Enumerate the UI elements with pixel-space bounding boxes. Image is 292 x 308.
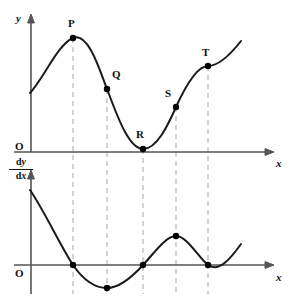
point-marker-p xyxy=(70,35,76,41)
point-label-r: R xyxy=(136,129,144,140)
point-label-t: T xyxy=(202,47,209,58)
point-marker-s xyxy=(173,104,179,110)
calculus-figure: y x O P Q R S T dy dx O x xyxy=(0,0,292,308)
derivative-curve xyxy=(30,190,241,288)
point-label-q: Q xyxy=(112,69,121,80)
lower-origin-label: O xyxy=(15,268,24,279)
derivative-axis-label: dy dx xyxy=(9,157,33,181)
upper-axes xyxy=(14,14,274,155)
upper-y-axis-arrow xyxy=(28,14,35,23)
point-marker-q xyxy=(104,86,110,92)
point-label-p: P xyxy=(68,18,75,29)
numerator-y: y xyxy=(22,156,26,167)
derivative-marker-p xyxy=(70,262,76,268)
figure-canvas xyxy=(0,0,292,308)
upper-x-axis-label: x xyxy=(276,158,282,169)
point-marker-r xyxy=(140,146,146,152)
lower-axes xyxy=(14,170,274,294)
derivative-numerator: dy xyxy=(9,157,33,168)
lower-x-axis-arrow xyxy=(265,262,274,269)
derivative-marker-r xyxy=(140,262,146,268)
point-label-s: S xyxy=(165,88,171,99)
derivative-marker-t xyxy=(205,262,211,268)
point-marker-t xyxy=(205,63,211,69)
upper-y-axis-label: y xyxy=(16,13,21,24)
derivative-marker-s xyxy=(173,233,179,239)
lower-x-axis-label: x xyxy=(276,272,282,283)
upper-origin-label: O xyxy=(15,141,24,152)
upper-x-axis-arrow xyxy=(265,149,274,156)
derivative-marker-q xyxy=(104,285,110,291)
dashed-line-group xyxy=(73,38,208,294)
derivative-denominator: dx xyxy=(9,171,33,182)
denominator-x: x xyxy=(21,170,26,181)
